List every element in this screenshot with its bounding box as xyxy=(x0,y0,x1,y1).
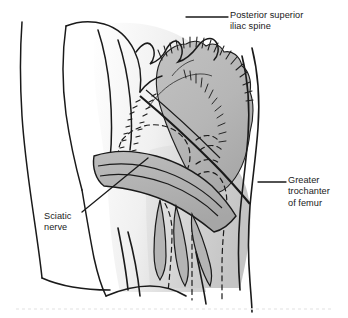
torso-inner-margin xyxy=(63,26,82,190)
label-posterior-superior-iliac-spine: Posterior superior iliac spine xyxy=(230,10,303,33)
label-greater-trochanter-of-femur: Greater trochanter of femur xyxy=(288,175,330,209)
torso-left-margin xyxy=(21,22,43,278)
anatomy-illustration xyxy=(0,0,348,318)
anatomical-figure: Posterior superior iliac spine Greater t… xyxy=(0,0,348,318)
label-sciatic-nerve: Sciatic nerve xyxy=(44,211,71,234)
flank-contour xyxy=(82,190,106,296)
